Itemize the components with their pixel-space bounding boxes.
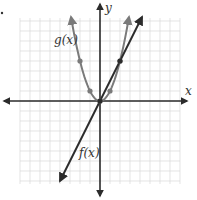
- corner-mark: [1, 12, 3, 14]
- x-axis-label: x: [185, 84, 192, 98]
- data-point: [97, 98, 102, 103]
- y-axis-label: y: [104, 1, 112, 15]
- data-point: [77, 58, 82, 63]
- data-point: [117, 58, 122, 63]
- function-graph: x y g(x) f(x): [0, 0, 197, 200]
- g-label: g(x): [54, 33, 78, 47]
- f-label: f(x): [78, 146, 100, 160]
- data-point: [87, 88, 92, 93]
- data-point: [107, 88, 112, 93]
